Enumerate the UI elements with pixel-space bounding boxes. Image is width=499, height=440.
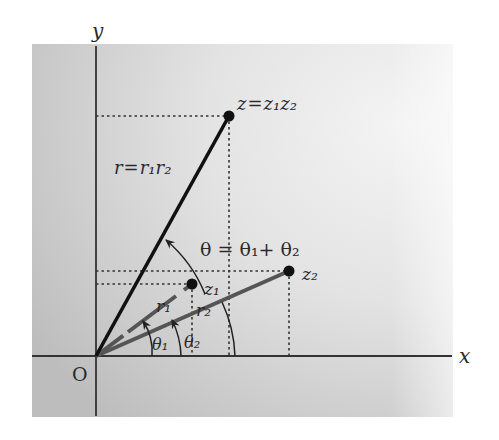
point-z: [224, 111, 235, 122]
complex-multiplication-diagram: y x O z=z₁z₂ z₁ z₂ r=r₁r₂ r₁ r₂ θ = θ₁+ …: [0, 0, 499, 440]
point-z2: [284, 266, 295, 277]
point-z1: [187, 279, 198, 290]
r-product-label: r=r₁r₂: [114, 157, 171, 178]
diagram-canvas: y x O z=z₁z₂ z₁ z₂ r=r₁r₂ r₁ r₂ θ = θ₁+ …: [0, 0, 499, 440]
point-z1-label: z₁: [203, 279, 220, 299]
theta-sum-label: θ = θ₁+ θ₂: [200, 238, 300, 260]
x-axis-label: x: [459, 344, 470, 368]
theta1-label: θ₁: [152, 335, 168, 354]
point-z-label-lhs: z: [236, 93, 247, 114]
r-product-eq: =: [124, 157, 139, 178]
r1-label: r₁: [156, 296, 171, 316]
y-axis-label: y: [91, 19, 104, 43]
point-z2-label: z₂: [301, 264, 318, 284]
theta2-label: θ₂: [184, 333, 200, 352]
point-z-label-eq: =: [247, 93, 262, 114]
point-z-label-rhs: z₁z₂: [263, 93, 297, 114]
origin-label: O: [72, 363, 88, 385]
r2-label: r₂: [196, 300, 211, 320]
point-z-label: z=z₁z₂: [236, 93, 297, 114]
r-product-lhs: r: [114, 157, 124, 178]
r-product-rhs: r₁r₂: [140, 157, 172, 178]
